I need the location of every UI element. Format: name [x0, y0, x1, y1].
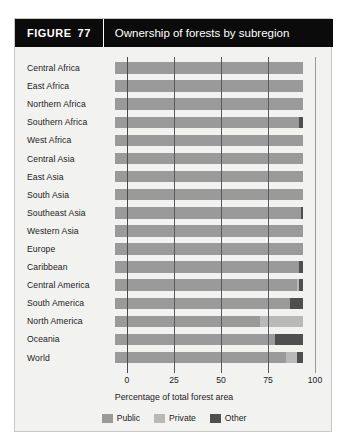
- x-axis-tick-label: 25: [169, 375, 179, 385]
- legend-item: Private: [154, 413, 196, 423]
- bar-segment-private: [286, 352, 297, 364]
- bar-segment-public: [115, 298, 290, 310]
- bar-segment-public: [115, 279, 297, 291]
- bar-track: [115, 62, 303, 74]
- bar-row: East Asia: [15, 168, 333, 186]
- bar-row: South Asia: [15, 186, 333, 204]
- bar-track: [115, 334, 303, 346]
- bar-track: [115, 189, 303, 201]
- bar-row-label: West Africa: [15, 135, 115, 145]
- bar-row-label: Southeast Asia: [15, 208, 115, 218]
- bar-row: Central America: [15, 276, 333, 294]
- legend-swatch: [102, 414, 113, 423]
- bar-row: Northern Africa: [15, 95, 333, 113]
- bar-row-label: Central Asia: [15, 154, 115, 164]
- bar-segment-other: [299, 261, 303, 273]
- bar-track: [115, 117, 303, 129]
- legend-label: Private: [169, 413, 196, 423]
- bar-row: Southern Africa: [15, 113, 333, 131]
- chart-legend: PublicPrivateOther: [15, 413, 333, 423]
- bar-row-label: South Asia: [15, 190, 115, 200]
- bar-track: [115, 298, 303, 310]
- bar-row-label: South America: [15, 298, 115, 308]
- bar-track: [115, 243, 303, 255]
- bar-segment-other: [275, 334, 303, 346]
- bar-track: [115, 279, 303, 291]
- bar-row-label: Northern Africa: [15, 99, 115, 109]
- bar-track: [115, 316, 303, 328]
- legend-swatch: [210, 414, 221, 423]
- bar-row-label: East Asia: [15, 172, 115, 182]
- bar-row-label: World: [15, 353, 115, 363]
- bar-segment-public: [115, 207, 301, 219]
- bar-segment-public: [115, 62, 303, 74]
- bar-track: [115, 207, 303, 219]
- bar-row: Caribbean: [15, 258, 333, 276]
- bar-row: West Africa: [15, 131, 333, 149]
- bar-row: Central Africa: [15, 59, 333, 77]
- bar-segment-other: [290, 298, 303, 310]
- bar-segment-public: [115, 117, 299, 129]
- bar-segment-public: [115, 171, 303, 183]
- bar-row-label: Central America: [15, 280, 115, 290]
- bar-row-label: Southern Africa: [15, 117, 115, 127]
- bar-segment-public: [115, 225, 303, 237]
- bar-segment-public: [115, 98, 303, 110]
- bar-segment-private: [260, 316, 303, 328]
- bar-segment-public: [115, 316, 260, 328]
- bar-segment-other: [297, 352, 303, 364]
- bar-row-label: Central Africa: [15, 63, 115, 73]
- figure-word: FIGURE: [27, 27, 72, 39]
- bar-row-label: Europe: [15, 244, 115, 254]
- bar-track: [115, 80, 303, 92]
- figure-card: FIGURE77 Ownership of forests by subregi…: [14, 18, 332, 432]
- bar-row: Oceania: [15, 330, 333, 348]
- legend-item: Other: [210, 413, 247, 423]
- bar-segment-other: [301, 207, 303, 219]
- bar-row: Western Asia: [15, 222, 333, 240]
- bar-segment-public: [115, 189, 303, 201]
- bar-segment-other: [299, 279, 303, 291]
- figure-tag: FIGURE77: [15, 27, 91, 39]
- bar-track: [115, 153, 303, 165]
- bar-segment-public: [115, 135, 303, 147]
- legend-label: Public: [117, 413, 140, 423]
- bar-row-label: Caribbean: [15, 262, 115, 272]
- bar-track: [115, 261, 303, 273]
- x-axis-label: Percentage of total forest area: [15, 392, 333, 402]
- figure-header: FIGURE77 Ownership of forests by subregi…: [15, 19, 333, 47]
- figure-number: 77: [78, 27, 91, 39]
- chart-plot-area: Central AfricaEast AfricaNorthern Africa…: [15, 47, 333, 433]
- x-axis-tick-label: 100: [308, 375, 322, 385]
- bar-row: South America: [15, 294, 333, 312]
- bar-track: [115, 98, 303, 110]
- bar-track: [115, 352, 303, 364]
- legend-item: Public: [102, 413, 140, 423]
- bar-track: [115, 225, 303, 237]
- x-axis-tick-label: 0: [125, 375, 130, 385]
- bar-segment-public: [115, 352, 286, 364]
- bar-track: [115, 135, 303, 147]
- legend-label: Other: [225, 413, 247, 423]
- bar-track: [115, 171, 303, 183]
- bar-row-label: Oceania: [15, 334, 115, 344]
- bar-row-label: Western Asia: [15, 226, 115, 236]
- bar-segment-public: [115, 80, 303, 92]
- legend-swatch: [154, 414, 165, 423]
- bar-segment-other: [299, 117, 303, 129]
- bar-row: World: [15, 349, 333, 367]
- bar-row-label: North America: [15, 316, 115, 326]
- bar-row: Europe: [15, 240, 333, 258]
- bar-row: Southeast Asia: [15, 204, 333, 222]
- x-axis-ticks: 0255075100: [127, 373, 315, 389]
- bar-row: Central Asia: [15, 149, 333, 167]
- bar-row: East Africa: [15, 77, 333, 95]
- figure-title: Ownership of forests by subregion: [104, 27, 290, 39]
- bar-rows: Central AfricaEast AfricaNorthern Africa…: [15, 59, 333, 367]
- bar-segment-public: [115, 334, 275, 346]
- bar-row: North America: [15, 312, 333, 330]
- bar-row-label: East Africa: [15, 81, 115, 91]
- bar-segment-public: [115, 153, 303, 165]
- x-axis-tick-label: 75: [263, 375, 273, 385]
- x-axis-tick-label: 50: [216, 375, 226, 385]
